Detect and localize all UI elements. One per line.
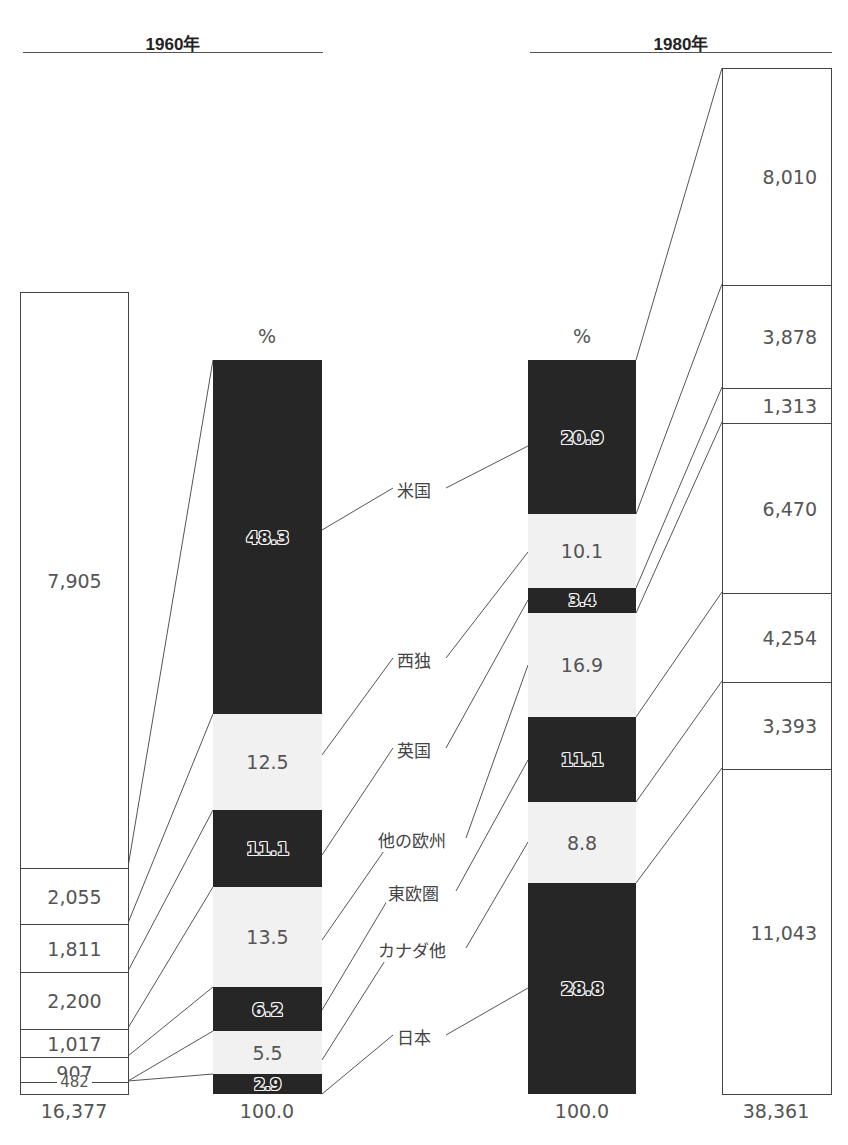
pct-1960-west-germany: 12.5 bbox=[213, 714, 322, 810]
label-uk: 英国 bbox=[395, 737, 433, 762]
pct-1960-usa: 48.3 bbox=[213, 360, 322, 714]
abs-1980-eastern-bloc: 4,254 bbox=[723, 593, 831, 682]
pct-1980-usa: 20.9 bbox=[528, 360, 636, 514]
percent-bar-1960: 48.3 12.5 11.1 13.5 6.2 5.5 2.9 bbox=[213, 360, 322, 1094]
abs-1980-other-europe: 6,470 bbox=[723, 423, 831, 593]
abs-1980-usa: 8,010 bbox=[723, 69, 831, 285]
abs-1980-japan: 11,043 bbox=[723, 769, 831, 1095]
label-eastern-bloc: 東欧圏 bbox=[386, 880, 441, 905]
abs-1980-west-germany: 3,878 bbox=[723, 285, 831, 388]
abs-1980-canada-other: 3,393 bbox=[723, 682, 831, 769]
label-other-europe: 他の欧州 bbox=[376, 827, 448, 852]
total-percent-1980: 100.0 bbox=[518, 1100, 646, 1122]
pct-1960-canada-other: 5.5 bbox=[213, 1031, 322, 1074]
pct-1980-other-europe: 16.9 bbox=[528, 613, 636, 717]
percent-bar-1980: 20.9 10.1 3.4 16.9 11.1 8.8 28.8 bbox=[528, 360, 636, 1094]
abs-1960-other-europe: 2,200 bbox=[21, 972, 128, 1029]
absolute-stack-1960: 7,905 2,055 1,811 2,200 1,017 907 482 bbox=[20, 292, 129, 1095]
pct-1980-japan: 28.8 bbox=[528, 883, 636, 1094]
pct-1960-uk: 11.1 bbox=[213, 810, 322, 887]
pct-1960-japan: 2.9 bbox=[213, 1074, 322, 1094]
absolute-stack-1980: 8,010 3,878 1,313 6,470 4,254 3,393 11,0… bbox=[722, 68, 832, 1095]
abs-1960-usa: 7,905 bbox=[21, 293, 128, 868]
total-absolute-1960: 16,377 bbox=[10, 1100, 138, 1122]
abs-1960-uk: 1,811 bbox=[21, 924, 128, 972]
abs-1960-japan: 482 bbox=[21, 1082, 128, 1095]
total-percent-1960: 100.0 bbox=[203, 1100, 331, 1122]
abs-1980-uk: 1,313 bbox=[723, 388, 831, 423]
pct-1980-uk: 3.4 bbox=[528, 588, 636, 613]
pct-1980-west-germany: 10.1 bbox=[528, 514, 636, 588]
abs-1960-west-germany: 2,055 bbox=[21, 868, 128, 924]
abs-1960-eastern-bloc: 1,017 bbox=[21, 1029, 128, 1057]
label-japan: 日本 bbox=[395, 1024, 433, 1049]
pct-1980-eastern-bloc: 11.1 bbox=[528, 717, 636, 802]
label-usa: 米国 bbox=[395, 477, 433, 502]
label-canada-other: カナダ他 bbox=[376, 937, 448, 962]
total-absolute-1980: 38,361 bbox=[712, 1100, 840, 1122]
pct-1960-eastern-bloc: 6.2 bbox=[213, 987, 322, 1031]
pct-1960-other-europe: 13.5 bbox=[213, 887, 322, 987]
label-west-germany: 西独 bbox=[395, 647, 433, 672]
pct-1980-canada-other: 8.8 bbox=[528, 802, 636, 883]
